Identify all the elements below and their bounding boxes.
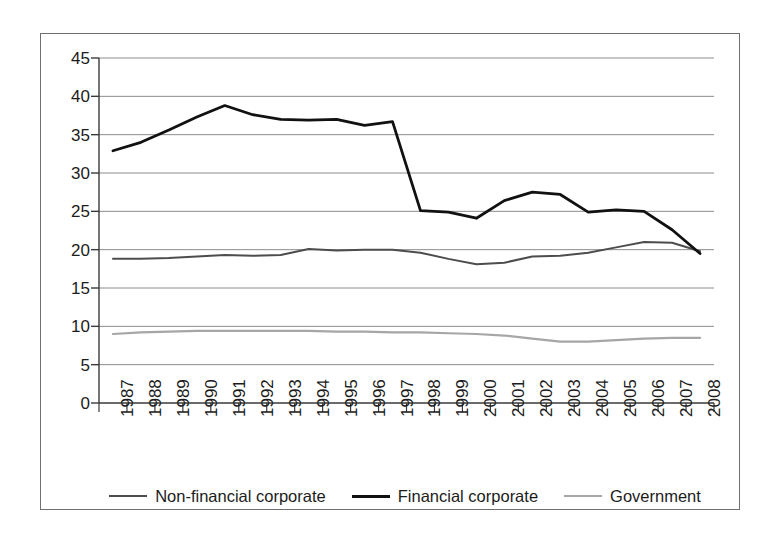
x-tick-label: 1997 — [399, 379, 416, 417]
x-tick-label: 2007 — [678, 379, 695, 417]
y-tick-label: 35 — [44, 126, 90, 143]
x-tick-label: 1994 — [315, 379, 332, 417]
x-tick-label: 2004 — [594, 379, 611, 417]
y-tick-label: 45 — [44, 50, 90, 67]
y-tick-label: 10 — [44, 318, 90, 335]
x-tick-label: 2005 — [622, 379, 639, 417]
y-tick-label: 5 — [44, 356, 90, 373]
legend-label-financial-corporate: Financial corporate — [398, 488, 538, 505]
y-tick-label: 20 — [44, 241, 90, 258]
y-tick-label: 15 — [44, 280, 90, 297]
y-tick-label: 0 — [44, 395, 90, 412]
line-chart-plot — [0, 0, 774, 537]
legend-label-government: Government — [610, 488, 701, 505]
axis-lines — [99, 58, 714, 403]
y-tick-label: 25 — [44, 203, 90, 220]
x-tick-label: 1989 — [175, 379, 192, 417]
legend-item-financial-corporate[interactable]: Financial corporate — [352, 488, 538, 505]
data-series — [113, 106, 700, 342]
y-tick-label: 40 — [44, 88, 90, 105]
y-axis-ticks — [91, 58, 99, 403]
x-tick-label: 1995 — [343, 379, 360, 417]
x-tick-label: 2000 — [482, 379, 499, 417]
x-tick-label: 1993 — [287, 379, 304, 417]
x-tick-label: 2008 — [706, 379, 723, 417]
x-tick-label: 1996 — [371, 379, 388, 417]
x-tick-label: 1990 — [203, 379, 220, 417]
x-tick-label: 1991 — [231, 379, 248, 417]
legend-label-non-financial-corporate: Non-financial corporate — [155, 488, 326, 505]
x-tick-label: 2002 — [538, 379, 555, 417]
chart-figure: 051015202530354045 198719881989199019911… — [0, 0, 774, 537]
x-tick-label: 2003 — [566, 379, 583, 417]
legend-swatch-government — [564, 495, 602, 497]
legend-item-government[interactable]: Government — [564, 488, 701, 505]
x-tick-label: 1992 — [259, 379, 276, 417]
x-tick-label: 2006 — [650, 379, 667, 417]
legend-swatch-non-financial-corporate — [109, 495, 147, 497]
y-tick-label: 30 — [44, 165, 90, 182]
legend-item-non-financial-corporate[interactable]: Non-financial corporate — [109, 488, 326, 505]
legend-swatch-financial-corporate — [352, 495, 390, 498]
chart-legend: Non-financial corporate Financial corpor… — [95, 483, 715, 509]
x-tick-label: 1987 — [119, 379, 136, 417]
x-tick-label: 1999 — [454, 379, 471, 417]
x-tick-label: 1998 — [426, 379, 443, 417]
x-tick-label: 2001 — [510, 379, 527, 417]
x-tick-label: 1988 — [147, 379, 164, 417]
